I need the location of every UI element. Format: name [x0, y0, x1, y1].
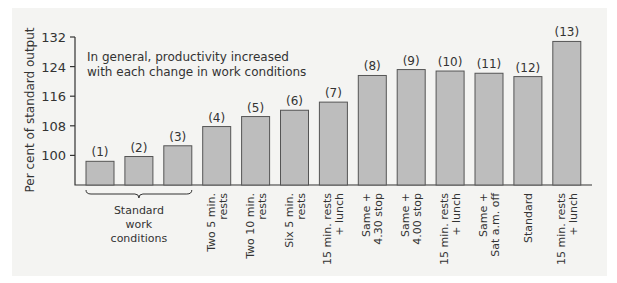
bar-id-label: (5) [247, 101, 264, 115]
bar-id-label: (1) [92, 145, 109, 159]
x-category-label: + lunch [333, 193, 346, 236]
group-label: Standard [114, 204, 164, 217]
bar-id-label: (6) [286, 94, 303, 108]
bar [203, 127, 231, 185]
annotation-line-1: In general, productivity increased [87, 50, 289, 64]
bar-id-label: (12) [516, 61, 541, 75]
bar-chart: 100108116124132 (1)(2)(3)(4)(5)(6)(7)(8)… [0, 0, 617, 283]
bar [514, 77, 542, 185]
bar [164, 146, 192, 185]
x-category-label: Standard [522, 193, 535, 243]
y-tick-label: 100 [41, 148, 66, 163]
group-label: work [126, 218, 153, 231]
bar-id-label: (2) [130, 141, 147, 155]
bar [86, 161, 114, 185]
bar-id-label: (9) [403, 54, 420, 68]
bar-id-label: (13) [554, 25, 579, 39]
x-category-labels: StandardworkconditionsTwo 5 min.restsTwo… [86, 190, 580, 265]
bar [553, 41, 581, 185]
bar-id-label: (7) [325, 86, 342, 100]
group-brace [86, 190, 192, 198]
y-tick-label: 132 [41, 30, 66, 45]
bar [358, 75, 386, 185]
bar [319, 102, 347, 185]
x-category-label: + lunch [567, 193, 580, 236]
group-label: conditions [111, 232, 168, 245]
x-category-label: Sat a.m. off [489, 193, 502, 257]
bar-id-label: (11) [477, 57, 502, 71]
bar [436, 71, 464, 185]
bar-id-label: (3) [169, 130, 186, 144]
x-category-label: rests [256, 193, 269, 220]
bar-id-label: (8) [364, 59, 381, 73]
bar [242, 117, 270, 185]
x-category-label: rests [295, 193, 308, 220]
y-axis-label: Per cent of standard output [23, 27, 37, 192]
bar-id-label: (10) [438, 55, 463, 69]
annotation-line-2: with each change in work conditions [87, 65, 306, 79]
x-category-label: rests [217, 193, 230, 220]
x-category-label: 4.30 stop [372, 193, 385, 245]
y-tick-label: 124 [41, 60, 66, 75]
x-category-label: + lunch [450, 193, 463, 236]
bar [397, 70, 425, 185]
bar [475, 73, 503, 185]
y-tick-label: 116 [41, 89, 66, 104]
bar [125, 157, 153, 185]
y-tick-label: 108 [41, 119, 66, 134]
x-category-label: 4.00 stop [411, 193, 424, 245]
bar [281, 110, 309, 185]
bar-id-label: (4) [208, 111, 225, 125]
